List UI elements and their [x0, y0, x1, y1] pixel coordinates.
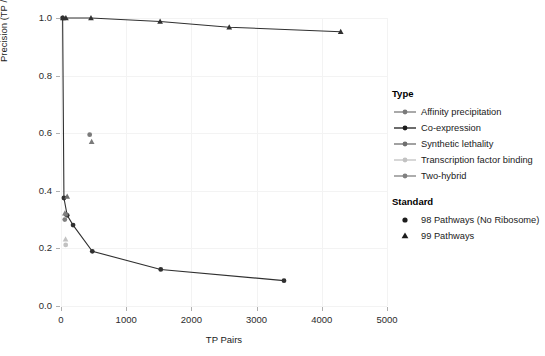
legend-item-type[interactable]: Transcription factor binding: [392, 152, 542, 168]
data-point: [87, 132, 92, 137]
y-axis-tick: [56, 133, 60, 134]
y-axis-tick: [56, 18, 60, 19]
legend-type-title: Type: [392, 88, 542, 99]
legend-line-icon: [392, 104, 418, 120]
legend-line-icon: [392, 136, 418, 152]
plot-panel: [61, 18, 387, 306]
legend-item-label: 99 Pathways: [418, 231, 474, 241]
legend-line-icon: [392, 168, 418, 184]
x-axis-tick-label: 3000: [227, 315, 287, 325]
y-axis-title-text: Precision (TP / [TP + FP]): [0, 0, 9, 62]
y-axis-title: Precision (TP / [TP + FP]): [0, 0, 9, 88]
x-axis-tick: [257, 307, 258, 311]
y-axis-tick-label: 0.8: [39, 71, 52, 81]
x-axis-tick: [61, 307, 62, 311]
legend-item-type[interactable]: Two-hybrid: [392, 168, 542, 184]
x-axis-tick-label: 4000: [292, 315, 352, 325]
y-axis-tick-label: 0.0: [39, 301, 52, 311]
x-axis-title: TP Pairs: [0, 334, 545, 345]
series-line: [63, 18, 284, 281]
data-point: [282, 278, 287, 283]
y-axis-tick: [56, 248, 60, 249]
data-point: [63, 243, 68, 248]
x-axis-tick-label: 2000: [161, 315, 221, 325]
legend-item-type[interactable]: Synthetic lethality: [392, 136, 542, 152]
y-axis-tick-label: 0.6: [39, 128, 52, 138]
x-axis-tick-label: 5000: [357, 315, 417, 325]
legend-line-icon: [392, 152, 418, 168]
legend-item-type[interactable]: Co-expression: [392, 120, 542, 136]
legend-item-label: Synthetic lethality: [418, 139, 493, 149]
data-point: [158, 267, 163, 272]
x-axis-tick: [387, 307, 388, 311]
data-point: [90, 249, 95, 254]
gridline-horizontal: [61, 306, 387, 307]
y-axis-tick: [56, 191, 60, 192]
y-axis-tick: [56, 306, 60, 307]
x-axis-tick: [126, 307, 127, 311]
legend-item-standard[interactable]: 99 Pathways: [392, 228, 542, 244]
x-axis-tick-label: 1000: [96, 315, 156, 325]
legend-item-label: Affinity precipitation: [418, 107, 501, 117]
x-axis-title-text: TP Pairs: [61, 334, 387, 345]
legend-circle-icon: [392, 212, 418, 228]
data-point: [60, 16, 65, 21]
legend-spacer: [392, 184, 542, 196]
data-point: [62, 217, 67, 222]
data-point: [71, 223, 76, 228]
legend-standard-title: Standard: [392, 196, 542, 207]
gridline-vertical: [387, 18, 388, 306]
x-axis-tick: [191, 307, 192, 311]
y-axis-tick-label: 0.4: [39, 186, 52, 196]
y-axis-tick-label: 0.2: [39, 243, 52, 253]
x-axis-tick: [322, 307, 323, 311]
legend-line-icon: [392, 120, 418, 136]
legend-item-label: 98 Pathways (No Ribosome): [418, 215, 539, 225]
data-point: [89, 139, 95, 144]
data-layer: [61, 18, 387, 306]
legend-item-type[interactable]: Affinity precipitation: [392, 104, 542, 120]
legend-type-items: Affinity precipitationCo-expressionSynth…: [392, 104, 542, 184]
legend: Type Affinity precipitationCo-expression…: [392, 88, 542, 244]
series-line: [63, 18, 341, 32]
legend-item-standard[interactable]: 98 Pathways (No Ribosome): [392, 212, 542, 228]
legend-triangle-icon: [392, 228, 418, 244]
legend-item-label: Transcription factor binding: [418, 155, 533, 165]
data-point: [63, 236, 69, 241]
legend-standard-items: 98 Pathways (No Ribosome)99 Pathways: [392, 212, 542, 244]
x-axis-tick-label: 0: [31, 315, 91, 325]
y-axis-tick: [56, 76, 60, 77]
y-axis-tick-label: 1.0: [39, 13, 52, 23]
legend-item-label: Co-expression: [418, 123, 481, 133]
chart-figure: 0.00.20.40.60.81.0 010002000300040005000…: [0, 0, 545, 356]
legend-item-label: Two-hybrid: [418, 171, 466, 181]
